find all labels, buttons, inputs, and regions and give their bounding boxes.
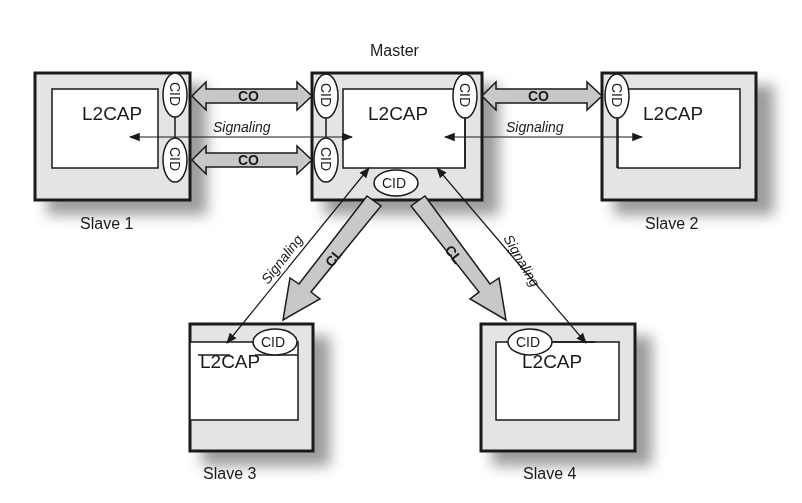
- slave1-layer-label: L2CAP: [82, 103, 142, 124]
- svg-text:CID: CID: [167, 147, 183, 171]
- slave3-layer-label: L2CAP: [200, 351, 260, 372]
- svg-text:CID: CID: [457, 83, 473, 107]
- co-label-lower: CO: [238, 152, 259, 168]
- svg-text:CID: CID: [318, 83, 334, 107]
- svg-text:CID: CID: [382, 175, 406, 191]
- slave1-inner-box: [52, 89, 158, 168]
- slave4-label: Slave 4: [523, 465, 576, 482]
- master-inner-box: [343, 89, 465, 168]
- signaling-label-master-slave2: Signaling: [506, 119, 564, 135]
- signaling-label-slave1-master: Signaling: [213, 119, 271, 135]
- slave2-inner-box: [618, 89, 740, 168]
- signaling-line-master-slave3: [227, 168, 369, 343]
- cid-master-left-lower: CID: [314, 138, 338, 182]
- svg-text:CID: CID: [261, 334, 285, 350]
- master-title: Master: [370, 42, 420, 59]
- cid-slave3: CID: [253, 329, 297, 355]
- signaling-label-master-slave4: Signaling: [500, 232, 543, 290]
- cid-slave1-upper: CID: [163, 73, 187, 117]
- slave3-label: Slave 3: [203, 465, 256, 482]
- cid-master-left-upper: CID: [314, 74, 338, 118]
- cid-slave4: CID: [508, 329, 552, 355]
- svg-text:CID: CID: [318, 147, 334, 171]
- master-layer-label: L2CAP: [368, 103, 428, 124]
- co-label-master-slave2: CO: [528, 88, 549, 104]
- l2cap-channel-diagram: L2CAP Slave 1 Master L2CAP L2CAP Slave 2…: [0, 0, 802, 503]
- slave2-layer-label: L2CAP: [643, 103, 703, 124]
- cid-master-bottom: CID: [374, 170, 418, 196]
- cid-master-right: CID: [453, 74, 477, 118]
- signaling-label-master-slave3: Signaling: [258, 231, 306, 286]
- svg-text:CID: CID: [167, 82, 183, 106]
- cid-slave1-lower: CID: [163, 138, 187, 182]
- svg-text:CID: CID: [516, 334, 540, 350]
- cid-slave2: CID: [605, 74, 629, 118]
- slave2-label: Slave 2: [645, 215, 698, 232]
- slave1-label: Slave 1: [80, 215, 133, 232]
- svg-text:CID: CID: [609, 83, 625, 107]
- co-label-upper: CO: [238, 88, 259, 104]
